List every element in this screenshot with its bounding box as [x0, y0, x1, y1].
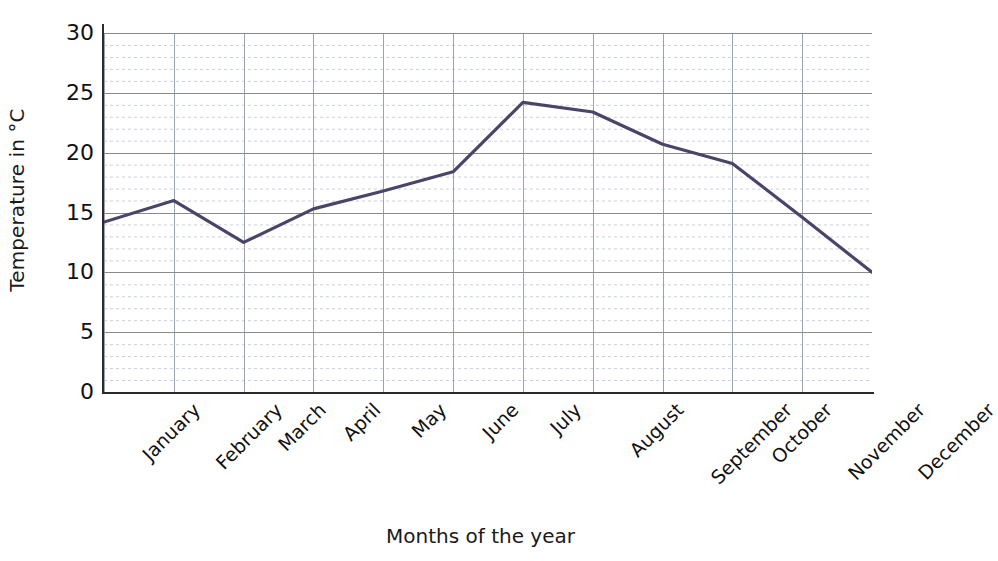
- y-tick-label-30: 30: [50, 22, 94, 44]
- vertical-gridlines: [105, 33, 873, 392]
- x-tick-label-july: July: [547, 400, 585, 438]
- plot-area: [104, 33, 872, 392]
- y-axis-title-text: Temperature in °C: [5, 108, 29, 291]
- y-tick-label-25: 25: [50, 82, 94, 104]
- x-tick-label-march: March: [275, 400, 329, 454]
- temperature-line-series: [104, 102, 872, 272]
- y-tick-label-0: 0: [50, 381, 94, 403]
- plot-svg: [104, 33, 872, 392]
- x-axis-title: Months of the year: [0, 524, 901, 548]
- y-tick-label-10: 10: [50, 261, 94, 283]
- x-tick-label-june: June: [479, 400, 522, 443]
- y-tick-label-15: 15: [50, 202, 94, 224]
- x-tick-label-may: May: [409, 400, 450, 441]
- x-tick-label-january: January: [139, 400, 203, 464]
- x-axis-title-text: Months of the year: [326, 524, 575, 548]
- x-tick-label-april: April: [340, 400, 384, 444]
- y-tick-label-5: 5: [50, 321, 94, 343]
- y-axis-tick-labels: 051015202530: [40, 0, 94, 561]
- major-gridlines: [104, 34, 872, 393]
- x-tick-label-august: August: [626, 400, 686, 460]
- y-axis-title: Temperature in °C: [0, 0, 34, 400]
- x-axis-line: [102, 392, 874, 394]
- x-tick-label-february: February: [212, 400, 285, 473]
- y-tick-label-20: 20: [50, 142, 94, 164]
